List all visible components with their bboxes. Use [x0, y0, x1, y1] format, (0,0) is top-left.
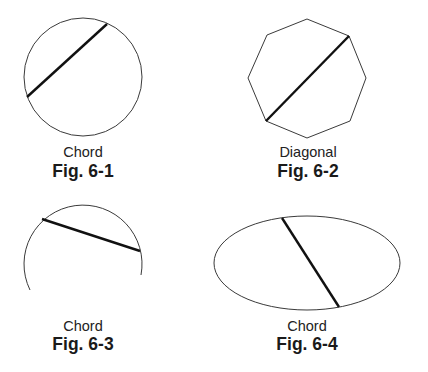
figure-6-3: Chord Fig. 6-3: [24, 205, 142, 354]
geometry-figures: Chord Fig. 6-1 Diagonal Fig. 6-2 Chord F…: [0, 0, 428, 372]
ellipse-shape: [214, 216, 400, 310]
figure-6-2: Diagonal Fig. 6-2: [248, 19, 366, 181]
figure-label: Fig. 6-4: [276, 334, 338, 354]
arc-shape: [24, 205, 142, 290]
figure-caption: Chord: [63, 144, 103, 160]
circle-shape: [24, 18, 142, 136]
figure-caption: Chord: [63, 318, 103, 334]
figure-label: Fig. 6-1: [52, 161, 114, 181]
diagonal-line: [266, 36, 349, 121]
figure-6-4: Chord Fig. 6-4: [214, 216, 400, 354]
chord-line: [282, 218, 339, 307]
chord-line: [27, 24, 107, 97]
figure-label: Fig. 6-3: [52, 334, 114, 354]
figure-label: Fig. 6-2: [277, 161, 339, 181]
figure-6-1: Chord Fig. 6-1: [24, 18, 142, 181]
figure-caption: Chord: [287, 318, 327, 334]
chord-line: [42, 219, 140, 251]
figure-caption: Diagonal: [279, 144, 336, 160]
